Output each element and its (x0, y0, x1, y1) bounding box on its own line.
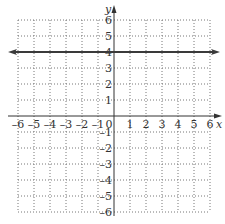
x-tick-label: 4 (175, 118, 182, 131)
y-tick-label: –3 (100, 158, 113, 171)
x-tick-label: –4 (44, 118, 57, 131)
y-tick-label: 2 (105, 78, 112, 91)
y-tick-label: –6 (100, 206, 113, 219)
x-tick-label: 1 (127, 118, 134, 131)
x-tick-label: 5 (191, 118, 198, 131)
y-tick-label: 1 (105, 94, 112, 107)
y-tick-label: –2 (100, 142, 113, 155)
x-tick-label: 3 (159, 118, 166, 131)
y-axis-arrow-icon (112, 5, 117, 13)
x-axis-label: x (216, 118, 223, 131)
y-tick-label: 5 (105, 30, 112, 43)
y-tick-label: –1 (100, 126, 113, 139)
y-tick-label: –4 (100, 174, 113, 187)
x-tick-label: –5 (28, 118, 41, 131)
x-tick-label: –2 (76, 118, 89, 131)
x-tick-label: –3 (60, 118, 73, 131)
x-tick-label: –6 (12, 118, 25, 131)
x-tick-label: 2 (143, 118, 150, 131)
axes (8, 5, 222, 216)
x-tick-label: 6 (207, 118, 214, 131)
y-axis-label: y (104, 3, 112, 16)
coordinate-plane: –6–5–4–3–2–10123456–6–5–4–3–2–1123456 x … (0, 0, 225, 224)
y-tick-label: 3 (105, 62, 112, 75)
y-tick-label: –5 (100, 190, 113, 203)
